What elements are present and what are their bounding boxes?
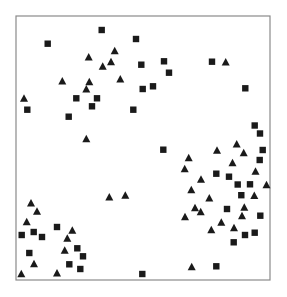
- square-marker: [94, 95, 100, 101]
- square-marker: [252, 230, 258, 236]
- square-marker: [150, 83, 156, 89]
- square-marker: [242, 232, 248, 238]
- square-marker: [138, 62, 144, 68]
- square-marker: [73, 95, 79, 101]
- triangle-marker: [222, 58, 230, 66]
- square-marker: [99, 27, 105, 33]
- triangle-marker: [68, 226, 76, 234]
- triangle-marker: [107, 58, 115, 65]
- square-marker: [24, 107, 30, 113]
- triangle-marker: [53, 269, 61, 277]
- triangle-marker: [116, 75, 124, 83]
- triangle-marker: [63, 234, 71, 242]
- triangle-marker: [30, 260, 38, 268]
- triangle-marker: [187, 186, 195, 194]
- triangle-marker: [82, 135, 90, 143]
- square-marker: [133, 36, 139, 42]
- square-marker: [257, 130, 263, 136]
- triangle-marker: [188, 263, 196, 271]
- triangle-marker: [82, 85, 90, 93]
- square-marker: [224, 206, 230, 212]
- triangle-marker: [27, 199, 35, 207]
- square-marker: [166, 70, 172, 76]
- square-marker: [130, 107, 136, 113]
- square-marker: [247, 181, 253, 187]
- triangle-marker: [191, 204, 199, 212]
- triangle-marker: [58, 77, 66, 85]
- triangle-marker: [17, 270, 25, 278]
- triangle-marker: [99, 62, 107, 70]
- triangle-marker: [61, 246, 69, 254]
- square-marker: [238, 192, 244, 198]
- triangle-marker: [105, 193, 113, 201]
- square-marker: [77, 266, 83, 272]
- square-marker: [80, 253, 86, 259]
- square-marker: [45, 41, 51, 47]
- square-marker: [252, 122, 258, 128]
- square-marker: [19, 232, 25, 238]
- square-marker: [226, 174, 232, 180]
- triangle-marker: [20, 94, 28, 102]
- square-marker: [74, 245, 80, 251]
- triangle-marker: [238, 212, 246, 220]
- square-marker: [213, 171, 219, 177]
- square-marker: [213, 263, 219, 269]
- square-marker: [66, 261, 72, 267]
- square-marker: [54, 224, 60, 230]
- triangle-marker: [85, 53, 93, 61]
- square-marker: [66, 114, 72, 120]
- triangle-marker: [111, 47, 119, 55]
- triangle-marker: [23, 218, 31, 226]
- triangle-marker: [240, 203, 248, 211]
- triangle-marker: [197, 208, 205, 216]
- square-marker: [26, 250, 32, 256]
- square-marker: [257, 213, 263, 219]
- square-marker: [89, 103, 95, 109]
- square-marker: [231, 239, 237, 245]
- triangle-marker: [252, 167, 260, 175]
- square-marker: [161, 58, 167, 64]
- triangle-marker: [250, 192, 258, 200]
- triangle-marker: [207, 226, 215, 234]
- square-marker: [235, 181, 241, 187]
- triangle-marker: [230, 224, 238, 232]
- triangle-marker: [205, 194, 213, 202]
- square-marker: [242, 85, 248, 91]
- square-marker: [160, 147, 166, 153]
- triangle-marker: [217, 218, 225, 226]
- square-marker: [139, 271, 145, 277]
- scatter-plot: [0, 0, 287, 297]
- triangle-marker: [181, 213, 189, 221]
- triangle-marker: [121, 191, 129, 199]
- square-marker: [257, 157, 263, 163]
- square-marker: [260, 147, 266, 153]
- square-marker: [39, 234, 45, 240]
- triangle-marker: [33, 207, 41, 215]
- triangle-marker: [181, 165, 189, 173]
- triangle-marker: [85, 78, 93, 86]
- triangle-marker: [240, 149, 248, 157]
- triangle-marker: [213, 146, 221, 154]
- square-marker: [31, 229, 37, 235]
- square-marker: [140, 86, 146, 92]
- triangle-marker: [263, 181, 271, 189]
- triangle-marker: [233, 140, 241, 148]
- triangle-marker: [185, 154, 193, 162]
- triangle-marker: [229, 159, 237, 167]
- square-marker: [209, 59, 215, 65]
- triangle-marker: [197, 175, 205, 183]
